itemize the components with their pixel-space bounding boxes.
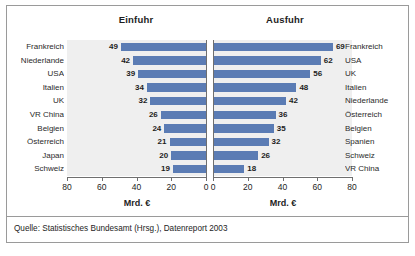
right-axis-tick [213,178,214,181]
trade-partners-figure: Einfuhr Ausfuhr Frankreich4969Frankreich… [0,0,415,256]
right-plot-area [213,40,352,54]
right-value-label: 42 [289,94,311,108]
right-category-label: UK [345,67,413,81]
left-plot-area [67,40,206,54]
left-value-label: 49 [96,40,118,54]
right-category-label: Österreich [345,108,413,122]
right-axis-tick [248,178,249,181]
right-bar [213,124,274,132]
right-panel-value-axis [213,40,214,177]
right-plot-area [213,162,352,176]
left-axis-tick-label: 20 [159,182,183,192]
right-bar [213,56,321,64]
left-bar [164,124,206,132]
left-plot-area [67,149,206,163]
right-category-label: Schweiz [345,149,413,163]
left-category-label: UK [4,94,64,108]
left-category-label: VR China [4,108,64,122]
source-note: Quelle: Statistisches Bundesamt (Hrsg.),… [14,224,227,233]
right-value-label: 35 [277,122,299,136]
left-category-label: Österreich [4,135,64,149]
right-category-label: Frankreich [345,40,413,54]
left-category-label: USA [4,67,64,81]
right-value-label: 18 [247,162,269,176]
right-bar [213,138,269,146]
left-bar [173,165,206,173]
right-category-label: VR China [345,162,413,176]
right-category-label: Spanien [345,135,413,149]
left-axis-tick [171,178,172,181]
chart-row: Frankreich4969Frankreich [0,40,415,54]
left-value-label: 39 [113,67,135,81]
left-axis-tick [137,178,138,181]
right-value-label: 56 [313,67,335,81]
left-axis-tick-label: 60 [90,182,114,192]
left-axis-tick [67,178,68,181]
right-category-label: USA [345,54,413,68]
right-axis-tick-label: 0 [201,182,225,192]
chart-row: Belgien2435Belgien [0,122,415,136]
left-axis-tick [102,178,103,181]
right-bar [213,83,296,91]
panel-title-ausfuhr: Ausfuhr [213,14,357,25]
left-value-label: 19 [148,162,170,176]
left-category-label: Belgien [4,122,64,136]
chart-row: VR China2636Österreich [0,108,415,122]
right-plot-area [213,81,352,95]
chart-row: Italien3448Italien [0,81,415,95]
left-axis-tick-label: 80 [55,182,79,192]
left-category-label: Japan [4,149,64,163]
left-value-label: 20 [146,149,168,163]
left-panel-value-axis [206,40,207,177]
right-value-label: 48 [299,81,321,95]
right-category-label: Belgien [345,122,413,136]
left-value-label: 21 [145,135,167,149]
left-bar [121,43,206,51]
left-category-label: Schweiz [4,162,64,176]
left-value-label: 34 [122,81,144,95]
left-plot-area [67,54,206,68]
right-axis-tick [352,178,353,181]
left-plot-area [67,135,206,149]
right-axis-tick-label: 40 [271,182,295,192]
panel-title-row: Einfuhr Ausfuhr [0,14,415,28]
left-bar [161,111,206,119]
left-value-label: 26 [136,108,158,122]
chart-row: USA3956UK [0,67,415,81]
right-value-label: 36 [279,108,301,122]
left-bar [171,151,206,159]
left-bar [133,56,206,64]
right-category-label: Niederlande [345,94,413,108]
right-bar [213,70,310,78]
right-axis-tick-label: 20 [236,182,260,192]
left-plot-area [67,162,206,176]
right-plot-area [213,94,352,108]
right-value-label: 62 [324,54,346,68]
left-category-label: Frankreich [4,40,64,54]
right-axis-tick [283,178,284,181]
left-category-label: Italien [4,81,64,95]
left-category-label: Niederlande [4,54,64,68]
chart-row: Schweiz1918VR China [0,162,415,176]
right-value-label: 32 [272,135,294,149]
right-bar [213,151,258,159]
left-plot-area [67,67,206,81]
chart-row: Niederlande4262USA [0,54,415,68]
chart-row: UK3242Niederlande [0,94,415,108]
left-bar [147,83,206,91]
right-bar [213,97,286,105]
chart-row: Japan2026Schweiz [0,149,415,163]
right-axis-tick [317,178,318,181]
left-bar [170,138,206,146]
right-value-label: 26 [261,149,283,163]
left-bar [138,70,206,78]
right-category-label: Italien [345,81,413,95]
source-divider [7,216,408,217]
right-axis-tick-label: 80 [340,182,364,192]
left-value-label: 42 [108,54,130,68]
panel-title-einfuhr: Einfuhr [64,14,208,25]
left-plot-area [67,122,206,136]
left-bar [150,97,206,105]
chart-row: Österreich2132Spanien [0,135,415,149]
right-axis-tick-label: 60 [305,182,329,192]
